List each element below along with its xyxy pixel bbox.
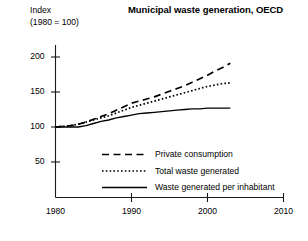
y-tick-label: 100 [19, 122, 45, 131]
legend-item-label: Private consumption [155, 149, 233, 159]
y-tick-label: 150 [19, 87, 45, 96]
legend-line-samples [102, 155, 147, 188]
series-line [56, 108, 231, 127]
y-tick-label: 200 [19, 52, 45, 61]
plot-area [0, 0, 308, 241]
x-tick-label: 2010 [267, 207, 301, 216]
legend-item-label: Total waste generated [155, 166, 239, 176]
legend-item-label: Waste generated per inhabitant [155, 182, 275, 192]
data-series-group [56, 63, 231, 127]
x-tick-label: 2000 [191, 207, 225, 216]
chart-figure: Index (1980 = 100) Municipal waste gener… [0, 0, 308, 241]
x-tick-label: 1980 [39, 207, 73, 216]
series-line [56, 83, 231, 127]
y-tick-label: 50 [19, 157, 45, 166]
series-line [56, 63, 231, 127]
x-tick-label: 1990 [115, 207, 149, 216]
